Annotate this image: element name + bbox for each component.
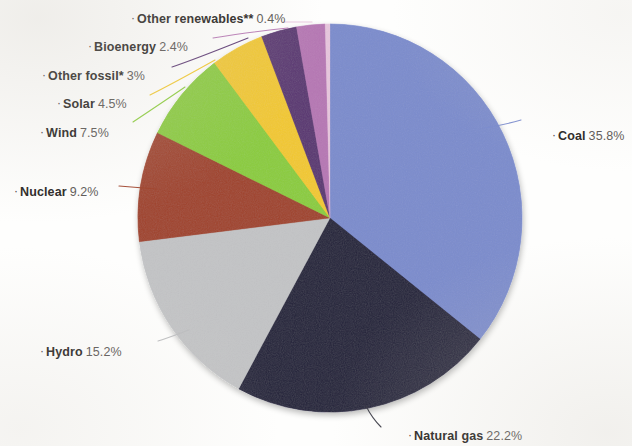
- bullet-icon: ·: [40, 344, 44, 358]
- bullet-icon: ·: [88, 39, 92, 53]
- slice-label-value: 3%: [127, 69, 145, 83]
- slice-label-value: 35.8%: [589, 129, 625, 143]
- slice-label-wind: ·Wind7.5%: [40, 127, 109, 140]
- bullet-icon: ·: [552, 128, 556, 142]
- bullet-icon: ·: [14, 184, 18, 198]
- slice-label-value: 15.2%: [86, 345, 122, 359]
- leader-line-coal: [484, 120, 521, 128]
- bullet-icon: ·: [42, 68, 46, 82]
- slice-label-value: 2.4%: [159, 40, 188, 54]
- leader-line-solar: [150, 60, 215, 95]
- slice-label-solar: ·Solar4.5%: [57, 98, 127, 111]
- slice-label-value: 0.4%: [257, 12, 286, 26]
- slice-label-value: 4.5%: [98, 97, 127, 111]
- slice-label-natural-gas: ·Natural gas22.2%: [408, 430, 522, 443]
- bullet-icon: ·: [131, 11, 135, 25]
- slice-label-hydro: ·Hydro15.2%: [40, 346, 122, 359]
- slice-label-value: 7.5%: [80, 126, 109, 140]
- leader-line-wind: [133, 87, 185, 122]
- slice-label-name: Bioenergy: [94, 40, 156, 54]
- slice-label-name: Coal: [558, 129, 586, 143]
- leader-line-natural-gas: [366, 406, 381, 427]
- slice-label-value: 22.2%: [486, 429, 522, 443]
- slice-label-name: Solar: [63, 97, 95, 111]
- slice-label-bioenergy: ·Bioenergy2.4%: [88, 41, 188, 54]
- slice-label-nuclear: ·Nuclear9.2%: [14, 186, 99, 199]
- slice-label-name: Hydro: [46, 345, 83, 359]
- bullet-icon: ·: [408, 428, 412, 442]
- slice-label-name: Other renewables**: [137, 12, 253, 26]
- pie-chart-figure: ·Coal35.8% ·Natural gas22.2% ·Hydro15.2%…: [0, 0, 632, 446]
- bullet-icon: ·: [40, 125, 44, 139]
- slice-label-name: Nuclear: [20, 185, 67, 199]
- leader-line-nuclear: [119, 186, 156, 189]
- slice-label-name: Other fossil*: [48, 69, 124, 83]
- bullet-icon: ·: [57, 96, 61, 110]
- slice-label-value: 9.2%: [70, 185, 99, 199]
- leader-line-bioenergy: [213, 28, 288, 38]
- leader-line-hydro: [158, 330, 189, 341]
- slice-label-other-renewables: ·Other renewables**0.4%: [131, 13, 285, 26]
- slice-label-name: Natural gas: [414, 429, 483, 443]
- leader-line-group: [0, 0, 632, 446]
- slice-label-other-fossil: ·Other fossil*3%: [42, 70, 145, 83]
- slice-label-name: Wind: [46, 126, 77, 140]
- slice-label-coal: ·Coal35.8%: [552, 130, 625, 143]
